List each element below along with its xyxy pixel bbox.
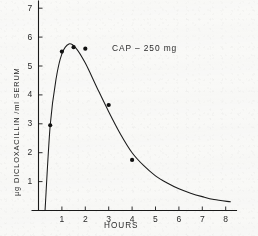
data-point-markers [48, 45, 134, 162]
x-tick-label: 5 [153, 215, 158, 224]
y-tick-label: 4 [28, 90, 33, 99]
y-tick-label: 1 [28, 177, 33, 186]
y-tick-label: 6 [28, 33, 33, 42]
x-tick-label: 6 [177, 215, 182, 224]
chart-plot-area [0, 0, 258, 236]
y-tick-label: 5 [28, 62, 33, 71]
x-tick-label: 8 [223, 215, 228, 224]
y-tick-label: 2 [28, 148, 33, 157]
y-tick-label: 3 [28, 119, 33, 128]
y-axis-title: µg DICLOXACILLIN /ml SERUM [12, 67, 21, 196]
y-tick-label: 7 [28, 4, 33, 13]
x-axis-title: HOURS [104, 222, 139, 230]
x-tick-label: 7 [200, 215, 205, 224]
x-tick-label: 2 [83, 215, 88, 224]
fitted-curve [45, 44, 230, 211]
x-tick-label: 1 [60, 215, 65, 224]
chart-axes [32, 0, 238, 210]
chart-annotation-dose: CAP – 250 mg [112, 44, 177, 52]
pharmacokinetic-chart-figure: 1234567 12345678 µg DICLOXACILLIN /ml SE… [0, 0, 258, 236]
